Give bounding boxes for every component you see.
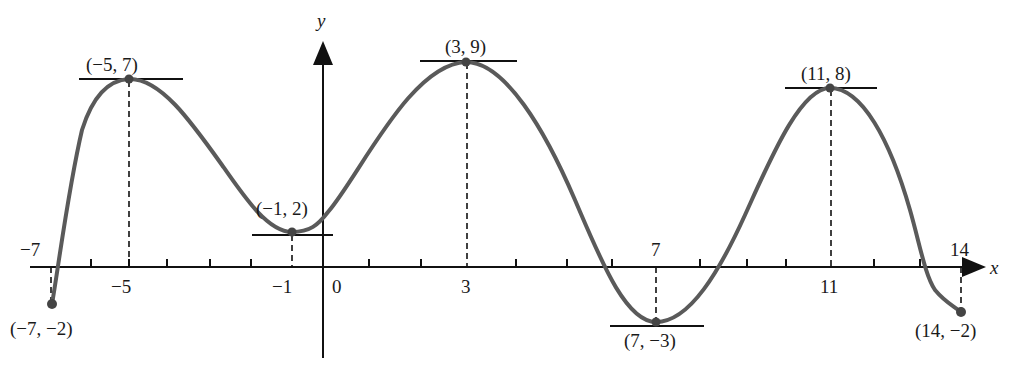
tick-label-14: 14 (950, 239, 970, 260)
point-label-11: (11, 8) (801, 63, 851, 85)
point-label-neg7: (−7, −2) (10, 318, 73, 340)
y-axis-label: y (315, 10, 326, 31)
point-label-neg5: (−5, 7) (86, 54, 138, 76)
x-ticks (91, 259, 920, 267)
point-label-3: (3, 9) (445, 36, 486, 58)
point-label-neg1: (−1, 2) (256, 198, 308, 220)
tick-label-3: 3 (461, 276, 471, 297)
tick-label-neg1: −1 (272, 276, 292, 297)
tick-label-zero: 0 (332, 276, 342, 297)
function-graph: y x −7 −5 −1 0 3 7 11 14 (−7, −2) (−5, 7… (0, 0, 1009, 365)
point-label-14: (14, −2) (915, 320, 976, 342)
point-label-7: (7, −3) (624, 330, 676, 352)
tick-label-11: 11 (820, 276, 838, 297)
tick-label-neg5: −5 (111, 276, 131, 297)
tick-label-7: 7 (651, 239, 661, 260)
x-axis-label: x (989, 257, 999, 278)
tick-label-neg7: −7 (20, 239, 40, 260)
tangent-lines (79, 61, 877, 326)
